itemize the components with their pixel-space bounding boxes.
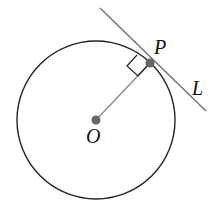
tangent-diagram: P O L (0, 0, 221, 211)
label-L: L (191, 77, 203, 99)
center-O-dot (92, 116, 101, 125)
label-O: O (86, 125, 100, 147)
point-P-dot (146, 59, 155, 68)
label-P: P (153, 36, 166, 58)
tangent-line-L (100, 8, 206, 111)
